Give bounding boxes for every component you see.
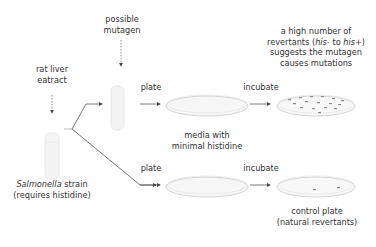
- salmonella-tube-icon: [45, 133, 59, 179]
- branch-down-arrow-icon: [72, 129, 156, 185]
- result-plate-icon: [277, 95, 355, 116]
- plate-label-top: plate: [138, 82, 164, 93]
- media-plate-bottom-icon: [166, 176, 248, 197]
- mutagen-tube-icon: [111, 86, 124, 130]
- possible-mutagen-label: possible mutagen: [102, 14, 142, 35]
- media-label: media with minimal histidine: [168, 130, 246, 151]
- branch-up-arrow-icon: [72, 104, 102, 129]
- salmonella-strain-label: Salmonella strain (requires histidine): [6, 179, 98, 200]
- control-plate-icon: [277, 176, 355, 197]
- control-plate-label: control plate (natural revertants): [274, 206, 360, 227]
- media-plate-top-icon: [166, 95, 248, 116]
- rat-liver-extract-label: rat liver eatract: [28, 64, 76, 85]
- incubate-label-top: incubate: [241, 82, 281, 93]
- result-description: a high number of revertants (his- to his…: [264, 26, 368, 68]
- incubate-label-bottom: incubate: [241, 163, 281, 174]
- plate-label-bottom: plate: [138, 163, 164, 174]
